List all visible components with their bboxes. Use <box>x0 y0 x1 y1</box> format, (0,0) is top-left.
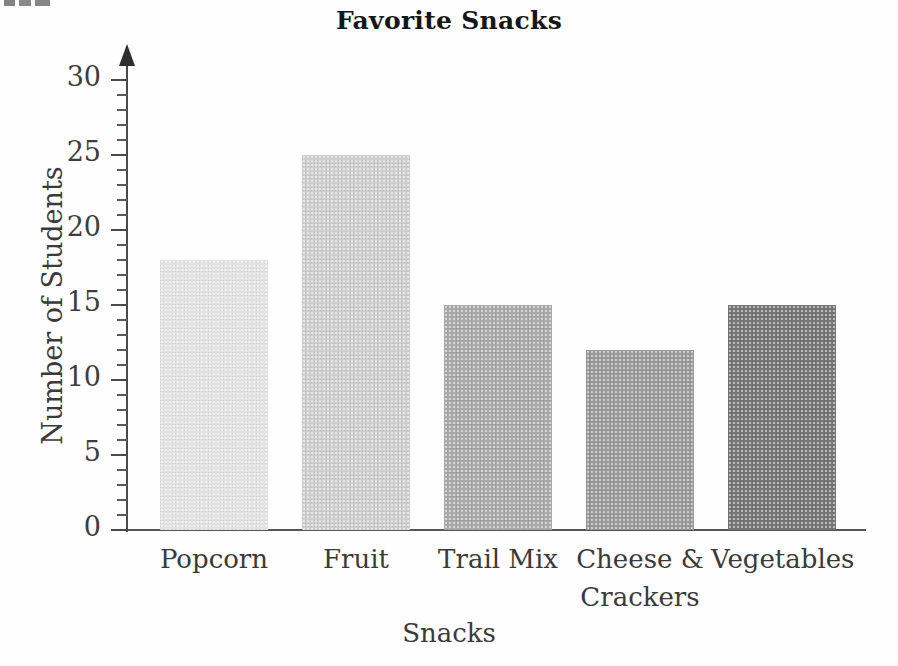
y-axis-minor-tick <box>117 139 128 141</box>
y-axis-major-tick <box>111 454 128 456</box>
y-axis-minor-tick <box>117 259 128 261</box>
y-axis-minor-tick <box>117 334 128 336</box>
y-axis-minor-tick <box>117 394 128 396</box>
y-axis-major-tick <box>111 154 128 156</box>
bar-texture <box>160 260 268 530</box>
x-axis-category-label: Cheese & Crackers <box>569 540 711 616</box>
y-axis-minor-tick <box>117 439 128 441</box>
x-axis-category-label: Trail Mix <box>427 540 569 578</box>
y-axis-minor-tick <box>117 409 128 411</box>
y-axis-minor-tick <box>117 169 128 171</box>
y-axis-minor-tick <box>117 244 128 246</box>
y-axis-minor-tick <box>117 274 128 276</box>
y-axis-major-tick <box>111 229 128 231</box>
y-axis-major-tick <box>111 379 128 381</box>
y-axis-line <box>126 62 128 532</box>
y-axis-minor-tick <box>117 184 128 186</box>
bar <box>302 155 410 530</box>
bar-texture <box>444 305 552 530</box>
y-axis-minor-tick <box>117 484 128 486</box>
plot-area: 051015202530 Number of Students PopcornF… <box>0 0 898 666</box>
y-axis-minor-tick <box>117 94 128 96</box>
y-axis-major-tick <box>111 79 128 81</box>
chart-page: Favorite Snacks 051015202530 Number of S… <box>0 0 898 666</box>
y-axis-minor-tick <box>117 214 128 216</box>
y-axis-minor-tick <box>117 424 128 426</box>
y-axis-minor-tick <box>117 469 128 471</box>
y-axis-major-tick <box>111 529 128 531</box>
x-axis-title: Snacks <box>0 618 898 648</box>
bar <box>586 350 694 530</box>
y-axis-minor-tick <box>117 109 128 111</box>
y-axis-arrow-icon <box>119 44 135 66</box>
y-axis-tick-label: 30 <box>31 61 101 92</box>
bar <box>728 305 836 530</box>
bar-texture <box>728 305 836 530</box>
x-axis-category-label: Vegetables <box>711 540 853 578</box>
y-axis-minor-tick <box>117 349 128 351</box>
y-axis-minor-tick <box>117 499 128 501</box>
bar-texture <box>302 155 410 530</box>
y-axis-minor-tick <box>117 364 128 366</box>
y-axis-title: Number of Students <box>37 136 68 476</box>
y-axis-major-tick <box>111 304 128 306</box>
x-axis-category-label: Popcorn <box>143 540 285 578</box>
x-axis-category-label: Fruit <box>285 540 427 578</box>
bar <box>160 260 268 530</box>
y-axis-minor-tick <box>117 289 128 291</box>
y-axis-minor-tick <box>117 199 128 201</box>
bar <box>444 305 552 530</box>
bar-texture <box>586 350 694 530</box>
y-axis-minor-tick <box>117 514 128 516</box>
y-axis-minor-tick <box>117 319 128 321</box>
y-axis-tick-label: 0 <box>31 511 101 542</box>
y-axis-minor-tick <box>117 124 128 126</box>
